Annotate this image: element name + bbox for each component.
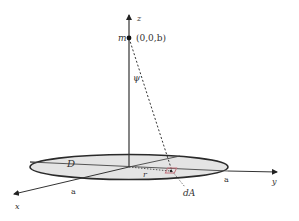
y-axis bbox=[228, 171, 277, 172]
area-element-label: dA bbox=[183, 188, 196, 198]
radius-a-x-label: a bbox=[71, 187, 76, 196]
radius-a-y-label: a bbox=[224, 175, 229, 184]
y-axis-label: y bbox=[271, 177, 277, 186]
z-axis-label: z bbox=[136, 14, 142, 23]
x-axis-label: x bbox=[15, 202, 20, 211]
region-d-label: D bbox=[66, 158, 75, 169]
area-element-dot bbox=[170, 170, 172, 172]
distance-line bbox=[129, 38, 172, 171]
diagram-svg: z m (0,0,b) ψ D r dA a a x y bbox=[0, 0, 299, 221]
diagram-canvas: z m (0,0,b) ψ D r dA a a x y bbox=[0, 0, 299, 221]
mass-point bbox=[127, 36, 132, 41]
mass-coords-label: (0,0,b) bbox=[136, 33, 166, 43]
mass-label: m bbox=[118, 33, 127, 43]
angle-psi-label: ψ bbox=[133, 73, 141, 83]
